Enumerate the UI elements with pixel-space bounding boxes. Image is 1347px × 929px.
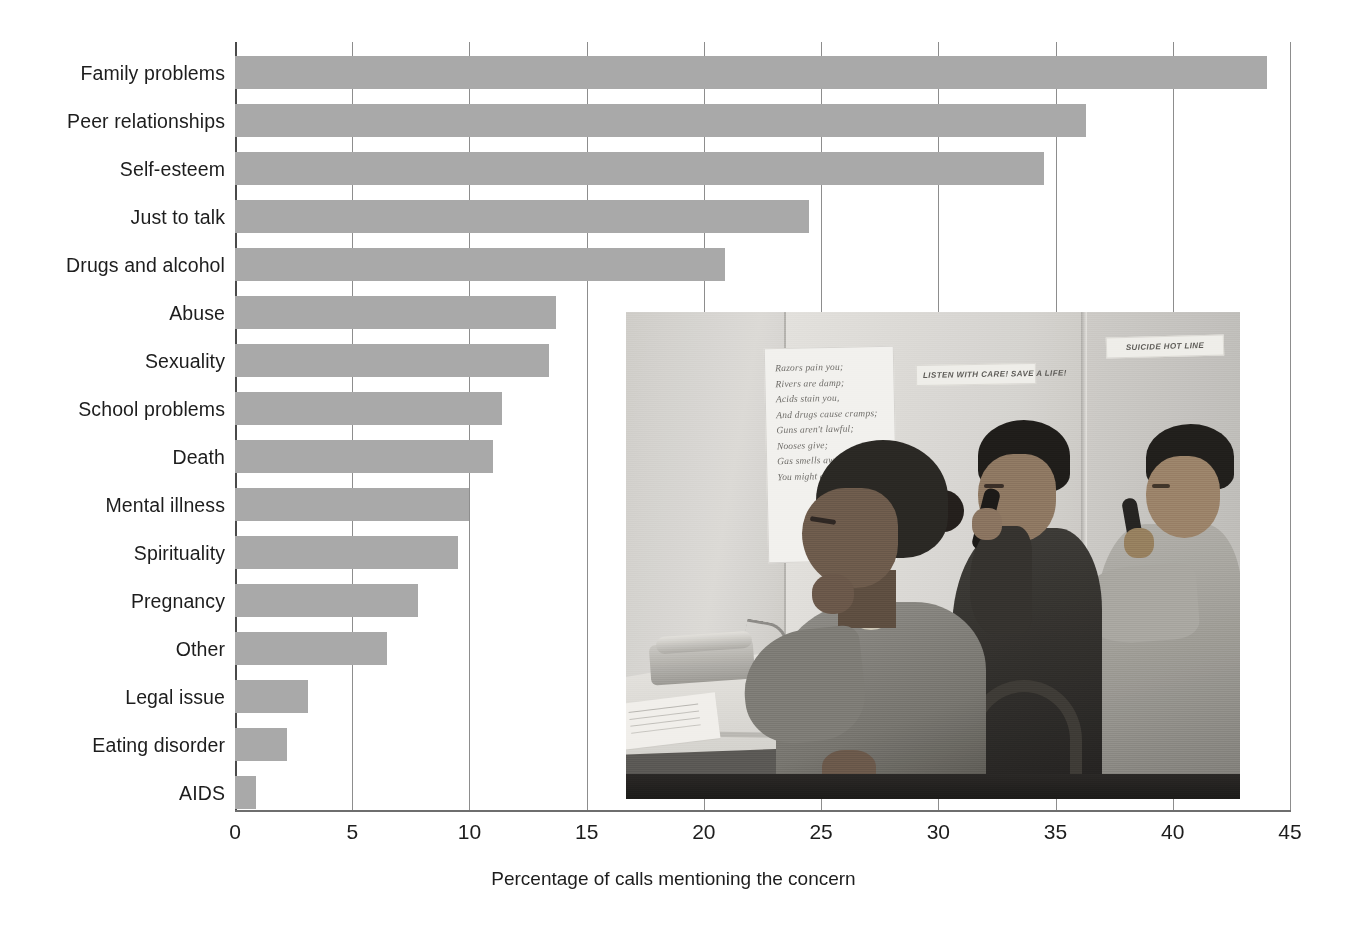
- sign-suicide-hot-line: SUICIDE HOT LINE: [1106, 334, 1225, 358]
- bar: [235, 344, 549, 377]
- x-tick-label: 30: [908, 820, 968, 844]
- category-label: Pregnancy: [0, 591, 225, 611]
- category-label: Drugs and alcohol: [0, 255, 225, 275]
- bar: [235, 776, 256, 809]
- bar: [235, 728, 287, 761]
- x-tick-label: 10: [439, 820, 499, 844]
- category-label: Mental illness: [0, 495, 225, 515]
- category-label: Sexuality: [0, 351, 225, 371]
- category-label: School problems: [0, 399, 225, 419]
- category-label: Just to talk: [0, 207, 225, 227]
- photo-volunteer-middle-arm: [970, 526, 1032, 634]
- sign-listen-with-care: LISTEN WITH CARE! SAVE A LIFE!: [916, 363, 1036, 386]
- photo-volunteer-right-hand: [1124, 528, 1154, 558]
- x-tick-label: 0: [205, 820, 265, 844]
- photo-volunteer-middle-hand: [972, 508, 1002, 540]
- photograph-teen-hotline-volunteers: Razors pain you;Rivers are damp;Acids st…: [626, 312, 1240, 799]
- bar: [235, 584, 418, 617]
- x-tick-label: 40: [1143, 820, 1203, 844]
- bar: [235, 200, 809, 233]
- x-tick-label: 20: [674, 820, 734, 844]
- x-tick-label: 45: [1260, 820, 1320, 844]
- category-label: Self-esteem: [0, 159, 225, 179]
- photo-volunteer-right-face: [1146, 456, 1220, 538]
- category-label: Legal issue: [0, 687, 225, 707]
- bar: [235, 536, 458, 569]
- category-label: Abuse: [0, 303, 225, 323]
- bar: [235, 104, 1086, 137]
- bar: [235, 632, 387, 665]
- category-label: Death: [0, 447, 225, 467]
- category-label: Other: [0, 639, 225, 659]
- category-label: Spirituality: [0, 543, 225, 563]
- bar: [235, 56, 1267, 89]
- category-label: Family problems: [0, 63, 225, 83]
- category-label: Peer relationships: [0, 111, 225, 131]
- photo-volunteer-front-hand: [812, 574, 854, 614]
- poem-line: And drugs cause cramps;: [776, 405, 886, 423]
- gridline-45: [1290, 42, 1291, 810]
- x-tick-label: 25: [791, 820, 851, 844]
- x-axis-line: [235, 810, 1291, 812]
- bar-chart-figure: Family problemsPeer relationshipsSelf-es…: [0, 0, 1347, 929]
- bar: [235, 488, 469, 521]
- bar: [235, 296, 556, 329]
- x-tick-label: 35: [1026, 820, 1086, 844]
- bar: [235, 152, 1044, 185]
- photo-floor: [626, 774, 1240, 799]
- x-axis-title: Percentage of calls mentioning the conce…: [0, 868, 1347, 890]
- bar: [235, 248, 725, 281]
- x-tick-label: 5: [322, 820, 382, 844]
- bar: [235, 392, 502, 425]
- x-tick-label: 15: [557, 820, 617, 844]
- bar: [235, 680, 308, 713]
- category-label: Eating disorder: [0, 735, 225, 755]
- bar: [235, 440, 493, 473]
- category-label: AIDS: [0, 783, 225, 803]
